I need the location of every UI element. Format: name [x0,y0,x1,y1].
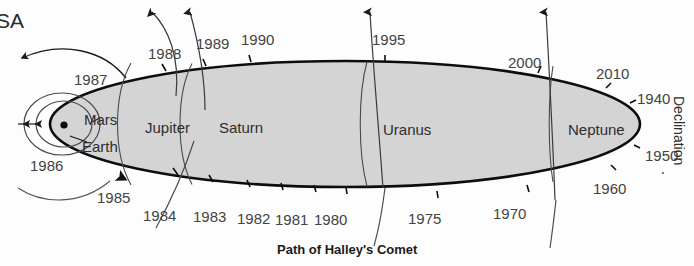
comet-travel-arrow [101,166,122,178]
corner-source-tag: SA [0,10,24,31]
year-label-1981: 1981 [275,212,308,227]
year-label-1985: 1985 [97,190,130,205]
year-label-1940: 1940 [637,91,670,106]
planet-label-saturn: Saturn [219,120,263,135]
trajectory-1960-tail [550,200,556,248]
year-label-1980: 1980 [314,212,347,227]
figure-caption: Path of Halley's Comet [277,243,417,256]
planet-label-jupiter: Jupiter [145,120,190,135]
year-label-1982: 1982 [237,211,270,226]
planet-label-neptune: Neptune [568,122,625,137]
year-label-1986: 1986 [30,158,63,173]
year-label-1960: 1960 [593,181,626,196]
year-label-1988: 1988 [148,46,181,61]
year-label-1975: 1975 [408,211,441,226]
scan-speck [662,172,664,174]
sun-marker [60,121,67,128]
year-label-1970: 1970 [493,206,526,221]
year-label-1987: 1987 [74,72,107,87]
planet-label-mars: Mars [84,112,117,127]
axis-label-declination: Declination [672,96,686,165]
year-label-1983: 1983 [193,209,226,224]
halley-comet-orbit-diagram: SA 1987 1988 1989 1990 1995 2000 2010 19… [0,0,694,266]
year-label-2000: 2000 [508,55,541,70]
planet-label-uranus: Uranus [383,122,431,137]
year-label-1989: 1989 [196,36,229,51]
trajectory-1975-tail [374,188,385,246]
planet-label-earth: Earth [82,139,118,154]
year-label-1984: 1984 [143,208,176,223]
year-label-1995: 1995 [372,32,405,47]
year-label-1990: 1990 [241,32,274,47]
year-label-2010: 2010 [596,66,629,81]
